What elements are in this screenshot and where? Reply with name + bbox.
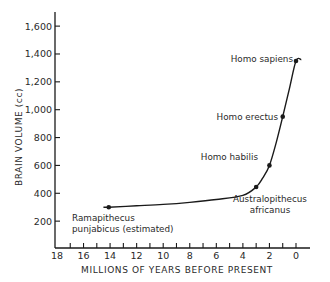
x-tick-label: 16: [77, 250, 89, 261]
y-tick-label: 1,000: [25, 104, 52, 115]
data-point-marker: [106, 205, 111, 210]
brain-volume-chart: 2004006008001,0001,2001,4001,600 1816141…: [0, 0, 330, 282]
y-tick-label: 800: [34, 132, 52, 143]
annotation-homo-erectus: Homo erectus: [217, 112, 279, 122]
y-tick-label: 600: [34, 160, 52, 171]
annotation-australopithecus: africanus: [250, 205, 291, 215]
x-tick-label: 12: [131, 250, 143, 261]
y-tick-label: 400: [34, 188, 52, 199]
y-tick-label: 200: [34, 216, 52, 227]
x-tick-label: 6: [213, 250, 219, 261]
annotation-ramapithecus: punjabicus (estimated): [72, 224, 174, 234]
brain-volume-curve: [103, 58, 301, 207]
y-axis-title: BRAIN VOLUME (cc): [14, 88, 24, 186]
x-axis-ticks: 181614121086420: [51, 243, 299, 261]
data-point-marker: [280, 114, 285, 119]
data-point-marker: [267, 163, 272, 168]
y-tick-label: 1,200: [25, 76, 52, 87]
x-tick-label: 8: [187, 250, 193, 261]
annotation-australopithecus: Australopithecus: [233, 194, 307, 204]
x-tick-label: 18: [51, 250, 63, 261]
annotation-homo-habilis: Homo habilis: [201, 152, 259, 162]
annotation-homo-sapiens: Homo sapiens: [231, 54, 294, 64]
x-tick-label: 0: [293, 250, 299, 261]
y-tick-label: 1,400: [25, 48, 52, 59]
x-axis-title: MILLIONS OF YEARS BEFORE PRESENT: [81, 265, 273, 275]
data-points: [106, 59, 298, 210]
x-tick-label: 10: [157, 250, 169, 261]
data-point-marker: [254, 185, 259, 190]
y-tick-label: 1,600: [25, 21, 52, 32]
x-tick-label: 14: [104, 250, 116, 261]
data-point-marker: [294, 59, 299, 64]
x-tick-label: 2: [266, 250, 272, 261]
annotation-ramapithecus: Ramapithecus: [72, 213, 135, 223]
x-tick-label: 4: [240, 250, 246, 261]
